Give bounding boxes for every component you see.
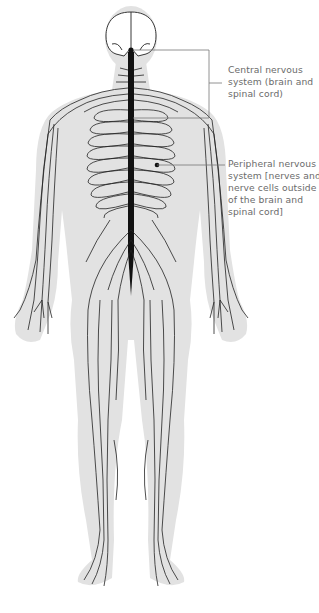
- cns-line-2: system (brain and: [228, 76, 313, 88]
- pns-line-2: system [nerves and: [228, 170, 319, 182]
- pns-line-1: Peripheral nervous: [228, 158, 319, 170]
- pns-line-3: nerve cells outside: [228, 182, 319, 194]
- pns-line-5: spinal cord]: [228, 206, 319, 218]
- cns-line-1: Central nervous: [228, 64, 313, 76]
- label-central-nervous-system: Central nervous system (brain and spinal…: [228, 64, 313, 100]
- cns-line-3: spinal cord): [228, 88, 313, 100]
- label-peripheral-nervous-system: Peripheral nervous system [nerves and ne…: [228, 158, 319, 218]
- pns-line-4: of the brain and: [228, 194, 319, 206]
- spinal-cord: [128, 47, 134, 296]
